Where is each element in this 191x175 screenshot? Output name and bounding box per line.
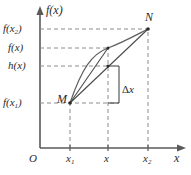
y-tick-label-fx-text: f(x [8,41,20,53]
delta-x-variable: x [129,83,134,95]
vertical-guides-group [70,29,148,148]
point-M-marker [68,101,72,105]
y-tick-label-fx2-close: ) [18,22,22,34]
y-axis-arrowhead [36,6,43,15]
y-tick-label-hx-text: h(x [8,59,22,71]
y-tick-label-fx2: f(x2) [3,23,22,36]
x-tick-label-x: x [104,153,109,166]
y-tick-label-fx1-close: ) [18,96,22,108]
diagram-canvas [0,0,191,175]
axes-group [36,6,186,152]
delta-x-bracket [108,66,119,103]
x-tick-label-x1-subscript: 1 [71,158,74,165]
function-secant-diagram: f(x) f(x2) f(x) h(x) f(x1) N M Δx O x1 x… [0,0,191,175]
y-axis-label: f(x) [46,4,63,16]
x-axis-label: x [174,152,179,164]
y-tick-label-fx: f(x) [8,42,23,55]
point-N-marker [146,27,150,31]
point-chord-at-x-marker [107,65,110,68]
point-M-label: M [57,93,67,105]
y-tick-label-fx1: f(x1) [3,97,22,110]
y-tick-label-fx-close: ) [20,41,24,53]
point-N-label: N [145,11,153,23]
y-tick-label-hx-close: ) [22,59,26,71]
y-tick-label-hx: h(x) [8,60,26,73]
origin-label: O [29,153,37,164]
x-tick-label-x2: x2 [143,153,151,166]
point-curve-at-x-marker [107,47,110,50]
delta-x-label: Δx [122,84,134,95]
x-tick-label-x2-subscript: 2 [148,158,151,165]
y-tick-label-fx2-text: f(x [3,22,15,34]
x-tick-label-x-text: x [104,152,109,164]
x-tick-label-x1: x1 [66,153,74,166]
chord-M-to-curvepoint [70,48,108,103]
y-tick-label-fx1-text: f(x [3,96,15,108]
